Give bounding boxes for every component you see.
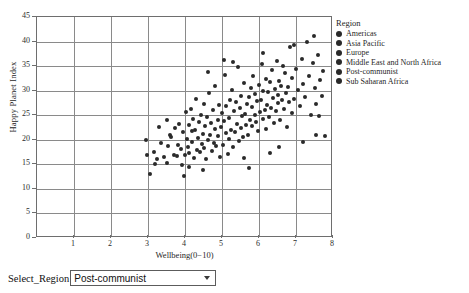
data-point	[152, 150, 156, 154]
data-point	[242, 156, 246, 160]
data-point	[202, 146, 206, 150]
data-point	[266, 90, 270, 94]
plot-area	[36, 16, 332, 237]
data-point	[303, 95, 307, 99]
data-point	[220, 111, 224, 115]
data-point	[321, 69, 325, 73]
y-axis-tick-label: 20	[22, 135, 30, 143]
data-point	[286, 85, 290, 89]
data-point	[237, 139, 241, 143]
legend-item[interactable]: Post-communist	[336, 67, 468, 77]
legend-item[interactable]: Asia Pacific	[336, 39, 468, 49]
data-point	[157, 125, 161, 129]
legend-item-label: Middle East and North Africa	[346, 58, 441, 67]
data-point	[181, 130, 185, 134]
data-point	[213, 84, 217, 88]
legend-dot-icon	[336, 40, 342, 46]
legend-title: Region	[336, 18, 468, 28]
data-point	[201, 132, 205, 136]
data-point	[204, 157, 208, 161]
y-axis-tick-label: 40	[22, 37, 30, 45]
x-axis-tick-mark	[147, 235, 148, 238]
data-point	[261, 117, 265, 121]
data-point	[284, 91, 288, 95]
legend-item[interactable]: Americas	[336, 29, 468, 39]
legend-item-label: Americas	[346, 29, 377, 38]
data-point	[282, 107, 286, 111]
y-axis-title: Happy Planet Index	[8, 32, 18, 162]
scatter-plot-app: 051015202530354045 Happy Planet Index 12…	[0, 0, 469, 293]
data-point	[209, 121, 213, 125]
data-point	[234, 100, 238, 104]
data-point	[275, 59, 279, 63]
data-point	[305, 40, 309, 44]
data-point	[301, 82, 305, 86]
x-axis-tick-mark	[221, 235, 222, 238]
data-point	[165, 161, 169, 165]
data-point	[253, 113, 257, 117]
legend-item[interactable]: Europe	[336, 48, 468, 58]
select-region-dropdown[interactable]: Post-communist	[70, 270, 216, 286]
data-point	[176, 143, 180, 147]
data-point	[247, 166, 251, 170]
data-point	[166, 144, 170, 148]
data-point	[320, 94, 324, 98]
data-point	[272, 121, 276, 125]
data-point	[259, 98, 263, 102]
x-axis-tick-label: 2	[108, 240, 112, 248]
data-point	[224, 131, 228, 135]
data-point	[202, 102, 206, 106]
data-point	[277, 79, 281, 83]
legend-item[interactable]: Sub Saharan Africa	[336, 77, 468, 87]
data-point	[192, 156, 196, 160]
data-point	[311, 61, 315, 65]
y-axis-tick-label: 15	[22, 159, 30, 167]
data-point	[245, 102, 249, 106]
data-point	[206, 70, 210, 74]
data-point	[323, 134, 327, 138]
data-point	[182, 174, 186, 178]
data-point	[162, 155, 166, 159]
data-point	[261, 89, 265, 93]
data-point	[257, 83, 261, 87]
data-point	[207, 91, 211, 95]
data-point	[201, 168, 205, 172]
data-point	[227, 116, 231, 120]
data-point	[281, 64, 285, 68]
data-point	[250, 124, 254, 128]
x-axis-tick-label: 1	[71, 240, 75, 248]
x-axis-tick-label: 7	[293, 240, 297, 248]
data-point	[189, 107, 193, 111]
data-point	[292, 97, 296, 101]
x-axis-tick-mark	[73, 235, 74, 238]
data-point	[184, 110, 188, 114]
data-point	[227, 137, 231, 141]
data-point	[217, 103, 221, 107]
legend-dot-icon	[336, 50, 342, 56]
legend-item[interactable]: Middle East and North Africa	[336, 58, 468, 68]
data-point	[248, 118, 252, 122]
data-point	[187, 151, 191, 155]
data-point	[222, 119, 226, 123]
data-point	[270, 68, 274, 72]
data-point	[175, 154, 179, 158]
data-point	[223, 73, 227, 77]
data-point	[199, 113, 203, 117]
data-point	[273, 87, 277, 91]
data-point	[279, 84, 283, 88]
data-point	[268, 151, 272, 155]
legend-dot-icon	[336, 31, 342, 37]
data-point	[191, 117, 195, 121]
data-point	[258, 110, 262, 114]
x-axis-tick-label: 8	[330, 240, 334, 248]
data-point	[205, 115, 209, 119]
data-point	[317, 114, 321, 118]
data-point	[173, 126, 177, 130]
x-axis-tick-mark	[258, 235, 259, 238]
legend-dot-icon	[336, 69, 342, 75]
data-point	[300, 57, 304, 61]
data-point	[203, 124, 207, 128]
data-point	[290, 76, 294, 80]
data-point	[148, 172, 152, 176]
data-point	[214, 144, 218, 148]
